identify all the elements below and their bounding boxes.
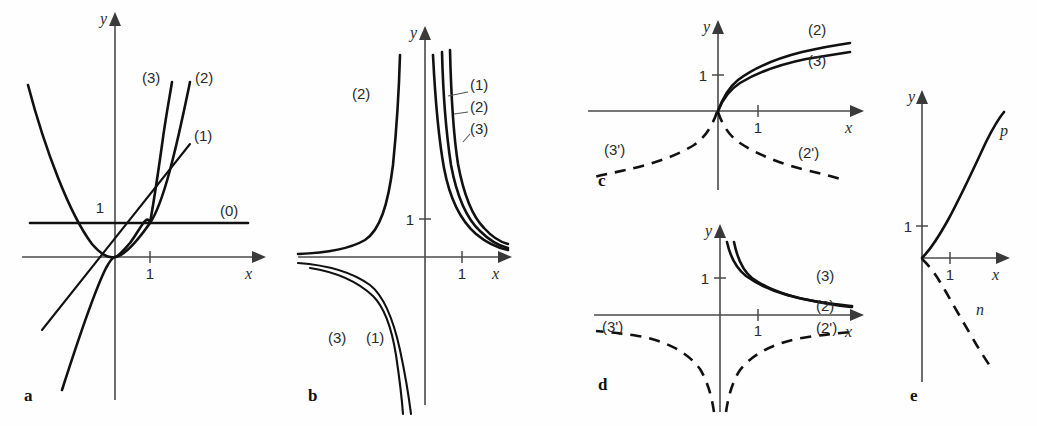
panel-c-y-axis xyxy=(712,20,724,190)
panel-b-curve-2-left xyxy=(298,55,400,254)
panel-b-label-right-1: (1) xyxy=(470,76,488,93)
panel-b-label-bottom-1: (1) xyxy=(366,329,384,346)
panel-e-x-axis xyxy=(922,252,1010,264)
panel-b: (2) (1) (2) (3) (3) (1) 1 1 x y b xyxy=(280,0,520,426)
panel-d-xtick-label-1: 1 xyxy=(754,322,762,339)
panel-c-curve-2p xyxy=(718,112,844,180)
panel-d-ytick-label-1: 1 xyxy=(701,270,709,287)
panel-e-curve-p xyxy=(922,112,1004,258)
panel-e: p n 1 1 x y e xyxy=(880,0,1037,426)
panel-b-letter: b xyxy=(308,386,317,405)
panel-d-letter: d xyxy=(598,375,608,394)
panel-e-ytick-label-1: 1 xyxy=(904,218,912,235)
panel-e-y-axis-label: y xyxy=(906,88,916,106)
panel-a-curve-2 xyxy=(28,82,190,257)
panel-a-y-axis xyxy=(109,12,121,400)
panel-c-y-axis-label: y xyxy=(701,18,711,36)
panel-d-label-3p: (3') xyxy=(602,318,623,335)
panel-d-curve-2p xyxy=(726,332,852,412)
panel-a-x-axis-label: x xyxy=(244,265,252,282)
panel-e-letter: e xyxy=(910,386,918,405)
panel-b-label-right-3: (3) xyxy=(470,120,488,137)
panel-c-label-2: (2) xyxy=(808,21,826,38)
panel-b-x-axis xyxy=(298,251,512,263)
panel-d-y-axis xyxy=(714,224,726,412)
panel-a-y-axis-label: y xyxy=(98,10,108,28)
panel-a-ytick-label-1: 1 xyxy=(96,199,104,216)
panel-a-curve-1 xyxy=(42,144,190,330)
panel-e-y-axis xyxy=(916,90,928,382)
panel-b-ytick-label-1: 1 xyxy=(406,211,414,228)
panel-c-x-axis xyxy=(588,105,864,117)
panel-d-curve-3p xyxy=(596,331,714,412)
panel-d-y-axis-label: y xyxy=(703,222,713,240)
panel-b-label-right-2: (2) xyxy=(470,98,488,115)
panel-c-label-3p: (3') xyxy=(604,141,625,158)
panel-b-xtick-label-1: 1 xyxy=(458,265,466,282)
panel-a-xtick-label-1: 1 xyxy=(146,265,154,282)
panel-c-letter: c xyxy=(598,171,606,190)
panel-b-label-left-2: (2) xyxy=(352,85,370,102)
panel-b-curve-3-left xyxy=(310,268,403,414)
panel-c-label-2p: (2') xyxy=(798,144,819,161)
panel-e-x-axis-label: x xyxy=(991,266,999,283)
panel-b-y-axis xyxy=(419,26,431,405)
panel-c-xtick-label-1: 1 xyxy=(754,119,762,136)
panel-c-curve-2 xyxy=(718,43,850,111)
panel-d-label-3: (3) xyxy=(816,267,834,284)
panel-e-label-n: n xyxy=(976,301,984,318)
panel-e-label-p: p xyxy=(999,122,1008,140)
panel-d-label-2: (2) xyxy=(816,297,834,314)
panel-c: (2) (3) (2') (3') 1 1 x y c xyxy=(520,0,880,426)
panel-d-label-2p: (2') xyxy=(816,319,837,336)
panel-b-y-axis-label: y xyxy=(408,24,418,42)
panel-a-label-1: (1) xyxy=(194,127,212,144)
panel-b-leader-2 xyxy=(454,112,468,114)
panel-a-label-2: (2) xyxy=(195,69,213,86)
panel-b-leader-3 xyxy=(463,134,470,142)
panel-e-xtick-label-1: 1 xyxy=(946,266,954,283)
panel-c-ytick-label-1: 1 xyxy=(699,67,707,84)
panel-a: (0) (1) (2) (3) 1 1 x y a xyxy=(0,0,280,426)
panel-a-label-3: (3) xyxy=(142,69,160,86)
panel-b-label-bottom-3: (3) xyxy=(328,329,346,346)
panel-a-x-axis xyxy=(22,251,266,263)
panel-c-label-3: (3) xyxy=(808,52,826,69)
panel-c-x-axis-label: x xyxy=(844,119,852,136)
panel-a-label-0: (0) xyxy=(220,202,238,219)
panel-d-x-axis-label: x xyxy=(844,323,852,340)
power-function-figure: (0) (1) (2) (3) 1 1 x y a xyxy=(0,0,1037,426)
panel-b-x-axis-label: x xyxy=(491,265,499,282)
panel-a-letter: a xyxy=(24,386,33,405)
